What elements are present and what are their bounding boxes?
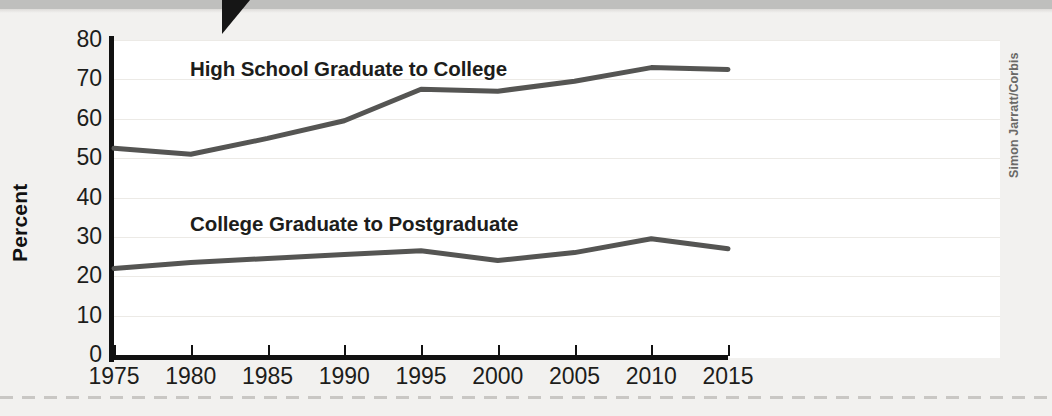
bottom-dashed-rule: [0, 396, 1052, 399]
series-label-college-to-postgraduate: College Graduate to Postgraduate: [190, 212, 518, 236]
series-label-high-school-to-college: High School Graduate to College: [190, 57, 507, 81]
series-lines-svg: [0, 0, 1052, 416]
series-line-college-to-postgraduate: [114, 239, 728, 269]
line-chart: 01020304050607080 1975198019851990199520…: [0, 0, 1052, 416]
chart-figure: Simon Jarratt/Corbis 01020304050607080 1…: [0, 0, 1052, 416]
